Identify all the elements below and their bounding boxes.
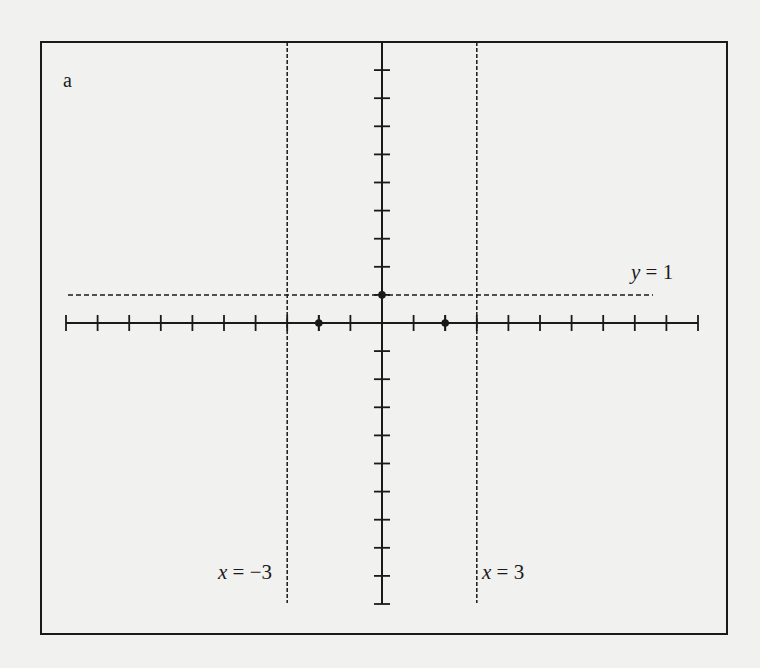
asymptote-label-y-1: y = 1 (629, 260, 673, 284)
graph-figure: a x = −3 x = 3 y = 1 (0, 0, 760, 668)
asymptote-label-eq: = (640, 260, 662, 284)
asymptote-label-val: 3 (514, 560, 525, 584)
paper-background (0, 0, 760, 668)
asymptote-label-eq: = (227, 560, 249, 584)
asymptote-label-val: −3 (250, 560, 272, 584)
asymptote-label-x-neg3: x = −3 (217, 560, 272, 584)
data-point (378, 291, 386, 299)
panel-label: a (63, 69, 72, 91)
asymptote-label-val: 1 (663, 260, 674, 284)
asymptote-label-var: y (629, 260, 641, 284)
asymptote-label-eq: = (491, 560, 513, 584)
asymptote-label-x-3: x = 3 (481, 560, 524, 584)
